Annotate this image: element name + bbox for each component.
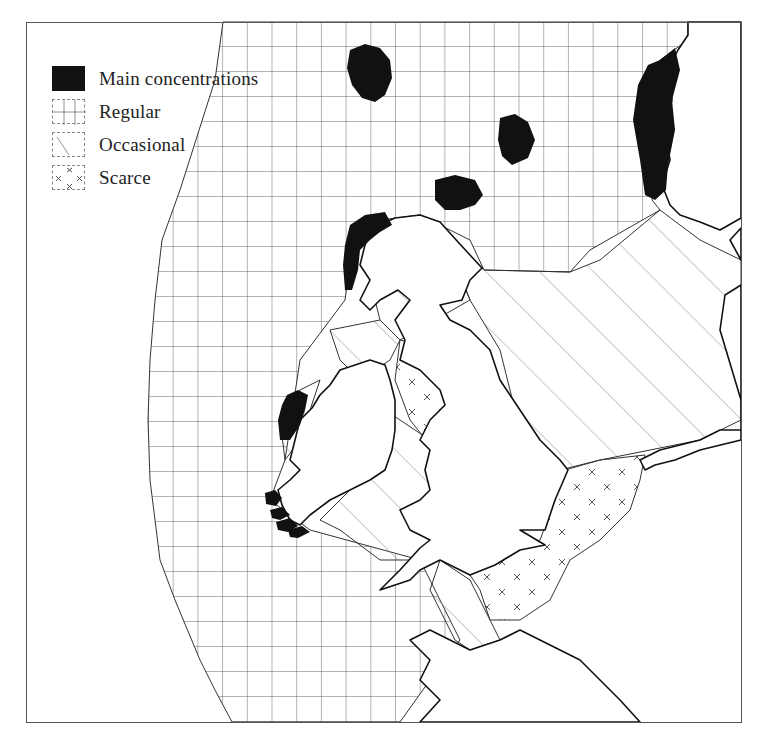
legend-label: Regular bbox=[99, 101, 161, 123]
main-concentrations-swatch bbox=[52, 66, 85, 91]
occasional-hatch-swatch bbox=[52, 132, 85, 157]
legend-item-main: Main concentrations bbox=[52, 62, 258, 95]
france bbox=[410, 630, 640, 722]
scarce-crosses-swatch bbox=[52, 165, 85, 190]
regular-grid-swatch bbox=[52, 99, 85, 124]
legend-label: Scarce bbox=[99, 167, 151, 189]
legend-label: Occasional bbox=[99, 134, 185, 156]
legend-label: Main concentrations bbox=[99, 68, 258, 90]
legend-item-regular: Regular bbox=[52, 95, 258, 128]
legend-item-scarce: Scarce bbox=[52, 161, 258, 194]
legend-item-occasional: Occasional bbox=[52, 128, 258, 161]
map-legend: Main concentrations Regular Occasional S… bbox=[52, 62, 258, 194]
